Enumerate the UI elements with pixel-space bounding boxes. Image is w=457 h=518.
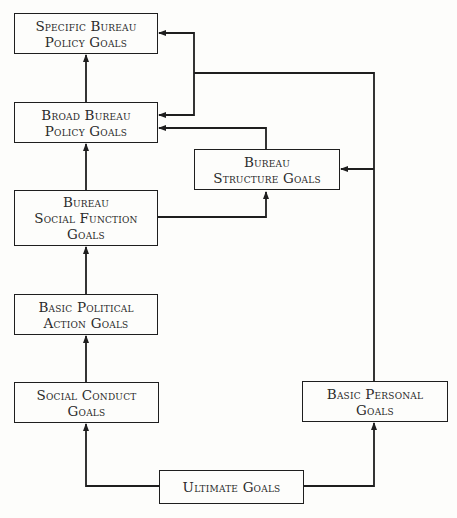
edge-ultimate-personal [303,423,374,486]
node-label: Basic Personal [327,386,423,402]
node-bureau-social-function-goals: Bureau Social Function Goals [14,190,158,246]
node-label: Action Goals [44,315,129,331]
node-label: Social Conduct [37,387,137,403]
node-specific-bureau-policy-goals: Specific Bureau Policy Goals [14,13,158,54]
node-broad-bureau-policy-goals: Broad Bureau Policy Goals [14,102,158,143]
edge-ultimate-conduct [86,424,159,486]
node-label: Ultimate Goals [183,479,281,495]
node-basic-political-action-goals: Basic Political Action Goals [14,294,158,335]
node-label: Goals [68,403,106,419]
node-label: Specific Bureau [35,18,136,34]
node-bureau-structure-goals: Bureau Structure Goals [194,149,340,190]
node-label: Policy Goals [45,34,127,50]
node-label: Broad Bureau [41,107,130,123]
edge-socialfunction-structure [157,192,266,217]
goal-hierarchy-diagram: Specific Bureau Policy Goals Broad Burea… [0,0,457,518]
node-ultimate-goals: Ultimate Goals [159,470,304,504]
node-label: Social Function [34,210,137,226]
edge-personal-trunk [194,73,374,381]
node-label: Basic Political [38,299,133,315]
edge-structure-broad [159,128,266,149]
connector-lines [0,0,457,518]
node-basic-personal-goals: Basic Personal Goals [302,381,448,422]
edge-personal-broad [159,73,194,115]
node-label: Structure Goals [213,170,321,186]
node-label: Goals [356,402,394,418]
edge-personal-specific [159,33,194,73]
node-label: Bureau [244,154,290,170]
node-social-conduct-goals: Social Conduct Goals [14,382,159,423]
node-label: Policy Goals [45,123,127,139]
node-label: Bureau [63,194,109,210]
node-label: Goals [67,226,105,242]
